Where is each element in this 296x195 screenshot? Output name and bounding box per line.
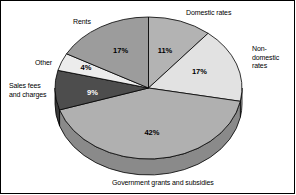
slice-label-government-grants: Government grants and subsidies [112, 179, 214, 188]
slice-label-other: Other [35, 59, 52, 68]
pie-slice-value-3: 9% [87, 88, 98, 97]
pie-slice-value-5: 17% [113, 46, 128, 55]
slice-label-non-domestic-rates: Non- domestic rates [252, 45, 279, 71]
pie-slice-value-2: 42% [144, 128, 159, 137]
slice-label-rents: Rents [73, 18, 91, 27]
pie-slice-value-1: 17% [192, 67, 207, 76]
slice-label-domestic-rates: Domestic rates [186, 9, 231, 18]
pie-slice-value-4: 4% [80, 63, 91, 72]
pie-slice-value-0: 11% [158, 46, 173, 55]
pie-slices: 11%17%42%9%4%17% [55, 17, 242, 159]
slice-label-sales-fees-and-charges: Sales fees and charges [9, 82, 46, 99]
